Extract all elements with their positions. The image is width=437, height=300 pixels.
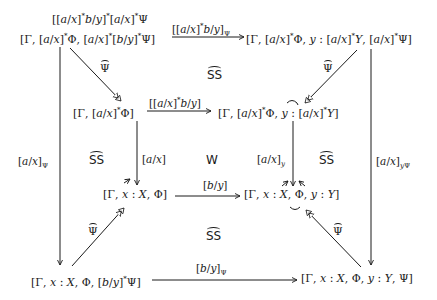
label-top-horizontal: [[a/x]*b/y]Ψ — [172, 20, 230, 40]
label-mid-horizontal: [[a/x]*b/y] — [149, 94, 201, 109]
node-top-left: [Γ, [a/x]*Φ, [a/x]*[b/y]*Ψ] — [20, 30, 155, 46]
node-bottom-left: [Γ, x : X, Φ, [b/y]*Ψ] — [31, 273, 141, 289]
node-mid-left: [Γ, [a/x]*Φ] — [73, 104, 134, 120]
arc-mid-right — [287, 101, 297, 104]
node-top-right: [Γ, [a/x]*Φ, y : [a/x]*Y, [a/x]*Ψ] — [246, 30, 412, 46]
commutative-diagram: [[a/x]*b/y]*[a/x]*Ψ [Γ, [a/x]*Φ, [a/x]*[… — [0, 0, 437, 300]
label-left-vertical: [a/x]Ψ — [18, 155, 48, 172]
node-inner-left: [Γ, x : X, Φ] — [103, 189, 167, 201]
label-mid-left-vertical: [a/x] — [142, 153, 166, 165]
label-top-left-diagonal: Ψ — [100, 63, 110, 75]
region-label-left: SS — [89, 154, 104, 166]
arrow-top-left-diagonal — [70, 48, 121, 101]
arrow-bottom-left-diagonal — [72, 208, 124, 266]
label-right-vertical: [a/x]yΨ — [376, 155, 410, 172]
region-label-right: SS — [319, 154, 334, 166]
node-inner-right: [Γ, x : X, Φ, y : Y] — [244, 189, 339, 201]
arrow-top-right-diagonal — [305, 50, 357, 103]
label-top-right-diagonal: Ψ — [323, 63, 333, 75]
arc-inner-right — [290, 207, 300, 210]
label-bottom-right-diagonal: Ψ — [333, 226, 343, 238]
label-mid-right-vertical: [a/x]y — [257, 153, 285, 170]
region-label-bottom: SS — [206, 230, 221, 242]
arrow-bottom-right-diagonal — [306, 210, 361, 267]
label-bottom-left-diagonal: Ψ — [88, 226, 98, 238]
hook-arrow-inner-right-b — [299, 181, 305, 186]
hook-arrow-inner-right-a — [282, 181, 288, 186]
region-label-top: SS — [207, 69, 222, 81]
node-mid-right: [Γ, [a/x]*Φ, y : [a/x]*Y] — [218, 104, 339, 120]
hook-arrow-inner-left — [124, 179, 130, 183]
label-bottom-horizontal: [b/y]Ψ — [196, 262, 227, 279]
region-label-center: W — [206, 154, 218, 166]
node-top-left-line1: [[a/x]*b/y]*[a/x]*Ψ — [52, 10, 148, 26]
label-inner-horizontal: [b/y] — [203, 179, 227, 191]
node-bottom-right: [Γ, x : X, Φ, y : Y, Ψ] — [301, 273, 413, 285]
